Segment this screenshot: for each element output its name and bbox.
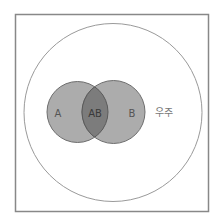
universe-label: 우주	[155, 107, 173, 118]
venn-diagram: A AB B 우주	[0, 0, 220, 223]
set-a-label: A	[55, 108, 62, 119]
intersection-label: AB	[88, 108, 102, 119]
set-b-label: B	[129, 108, 136, 119]
